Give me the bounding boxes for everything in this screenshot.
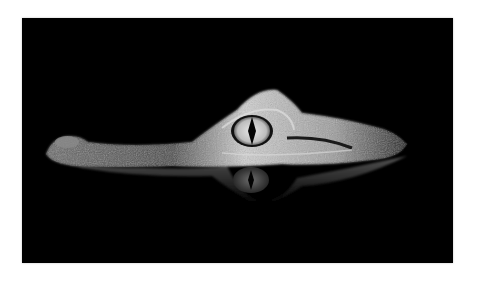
caiman-head [46, 90, 407, 167]
photo [22, 18, 453, 263]
caiman-eye [231, 115, 273, 147]
nostril [55, 136, 79, 148]
caiman-photo [22, 18, 453, 263]
